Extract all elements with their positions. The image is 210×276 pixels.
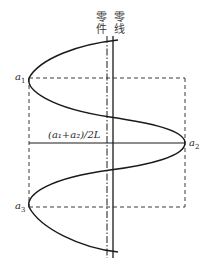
a2-subscript: 2 [195,143,199,151]
a1-label: a1 [15,71,25,85]
a2-label: a2 [189,137,199,151]
zero-line-label: 零线 [113,12,125,36]
deviation-diagram: 零件 零线 a1 a2 a3 (a₁+a₂)/2L [0,0,210,276]
diagram-canvas [0,0,210,276]
a1-subscript: 1 [21,77,25,85]
a3-label: a3 [15,200,25,214]
mean-formula-label: (a₁+a₂)/2L [48,129,101,140]
part-line-label: 零件 [95,12,107,36]
a3-subscript: 3 [21,206,25,214]
